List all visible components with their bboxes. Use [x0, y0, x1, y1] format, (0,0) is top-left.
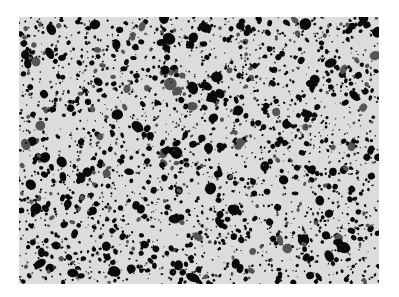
particle-speckles	[19, 17, 379, 284]
micrograph-image	[19, 17, 379, 284]
